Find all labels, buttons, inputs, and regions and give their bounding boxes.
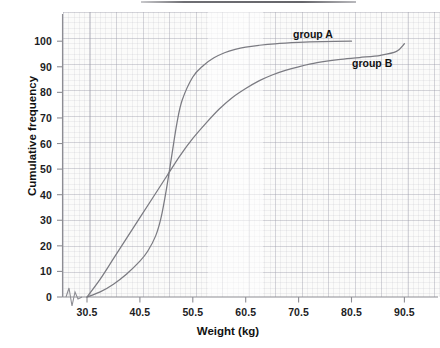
y-tick-label: 20 — [18, 240, 52, 252]
series-line-group-a — [87, 41, 352, 297]
chart-svg — [0, 0, 440, 348]
y-axis-title: Cumulative frequency — [26, 66, 38, 206]
x-tick-label: 70.5 — [279, 306, 319, 318]
series-line-group-b — [87, 44, 404, 297]
y-tick-label: 30 — [18, 214, 52, 226]
y-tick-label: 0 — [18, 291, 52, 303]
x-tick-label: 60.5 — [226, 306, 266, 318]
x-axis-title: Weight (kg) — [148, 325, 308, 337]
x-tick-label: 30.5 — [67, 306, 107, 318]
y-tick-marks — [57, 41, 63, 297]
y-tick-label: 10 — [18, 265, 52, 277]
series-label-group-a: group A — [293, 28, 333, 40]
series-label-group-b: group B — [352, 57, 392, 69]
y-tick-label: 100 — [18, 35, 52, 47]
x-tick-label: 40.5 — [120, 306, 160, 318]
x-tick-label: 90.5 — [384, 306, 424, 318]
x-tick-marks — [87, 297, 404, 303]
x-tick-label: 80.5 — [332, 306, 372, 318]
x-tick-label: 50.5 — [173, 306, 213, 318]
